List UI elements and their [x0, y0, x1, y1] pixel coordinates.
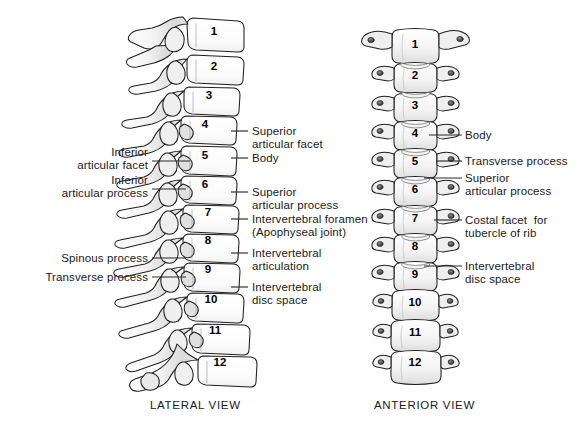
vertebra-number-lateral-10: 10 [202, 293, 220, 305]
label-line: Transverse process [45, 271, 148, 284]
vertebra-number-lateral-4: 4 [196, 118, 214, 130]
label-lateral-transverse-process: Transverse process [45, 271, 148, 284]
label-line: articular process [252, 199, 338, 212]
label-line: (Apophyseal joint) [252, 226, 368, 239]
label-line: tubercle of rib [465, 227, 548, 240]
label-line: Spinous process [61, 252, 148, 265]
vertebra-number-lateral-3: 3 [200, 89, 218, 101]
label-anterior-costal-facet-for-tubercle-of-rib: Costal facet fortubercle of rib [465, 214, 548, 239]
vertebra-number-lateral-7: 7 [199, 206, 217, 218]
label-line: Intervertebral foramen [252, 213, 368, 226]
vertebra-number-lateral-8: 8 [199, 234, 217, 246]
label-lateral-intervertebral-articulation: Intervertebralarticulation [252, 247, 321, 272]
label-lateral-spinous-process: Spinous process [61, 252, 148, 265]
vertebra-number-anterior-3: 3 [406, 99, 424, 111]
label-line: articular process [62, 187, 148, 200]
vertebra-number-anterior-4: 4 [406, 127, 424, 139]
label-line: Body [465, 129, 492, 142]
anatomy-figure: Inferiorarticular facetInferiorarticular… [0, 0, 576, 426]
label-line: Superior [465, 172, 551, 185]
vertebra-number-anterior-12: 12 [406, 356, 424, 368]
vertebra-number-anterior-11: 11 [406, 326, 424, 338]
label-line: Inferior [77, 146, 148, 159]
label-line: articular facet [77, 159, 148, 172]
label-lateral-superior-articular-process: Superiorarticular process [252, 186, 338, 211]
vertebra-number-lateral-1: 1 [205, 25, 223, 37]
label-line: Transverse process [465, 155, 568, 168]
vertebra-number-anterior-1: 1 [406, 38, 424, 50]
label-anterior-transverse-process: Transverse process [465, 155, 568, 168]
label-line: disc space [465, 273, 534, 286]
label-line: Intervertebral [252, 247, 321, 260]
label-anterior-superior-articular-process: Superiorarticular process [465, 172, 551, 197]
vertebra-number-lateral-12: 12 [211, 356, 229, 368]
label-lateral-superior-articular-facet: Superiorarticular facet [252, 125, 323, 150]
vertebra-number-anterior-10: 10 [406, 296, 424, 308]
label-line: Superior [252, 125, 323, 138]
label-lateral-inferior-articular-facet: Inferiorarticular facet [77, 146, 148, 171]
vertebra-number-lateral-6: 6 [196, 178, 214, 190]
label-lateral-intervertebral-foramen-apophyseal-joint: Intervertebral foramen(Apophyseal joint) [252, 213, 368, 238]
label-anterior-intervertebral-disc-space: Intervertebraldisc space [465, 260, 534, 285]
vertebra-number-lateral-5: 5 [196, 149, 214, 161]
label-line: Superior [252, 186, 338, 199]
vertebra-number-lateral-9: 9 [199, 263, 217, 275]
label-lateral-body: Body [252, 152, 279, 165]
label-lateral-intervertebral-disc-space: Intervertebraldisc space [252, 281, 321, 306]
vertebra-number-anterior-6: 6 [406, 183, 424, 195]
vertebra-number-anterior-9: 9 [406, 268, 424, 280]
label-lateral-inferior-articular-process: Inferiorarticular process [62, 174, 148, 199]
label-line: Intervertebral [465, 260, 534, 273]
label-anterior-body: Body [465, 129, 492, 142]
label-line: Inferior [62, 174, 148, 187]
label-line: articular facet [252, 138, 323, 151]
label-line: Costal facet for [465, 214, 548, 227]
vertebra-number-anterior-2: 2 [406, 69, 424, 81]
vertebra-number-anterior-5: 5 [406, 155, 424, 167]
vertebra-number-anterior-8: 8 [406, 240, 424, 252]
vertebra-number-lateral-11: 11 [206, 324, 224, 336]
label-line: articulation [252, 260, 321, 273]
label-line: Intervertebral [252, 281, 321, 294]
lateral-spine-group [114, 17, 257, 391]
caption-anterior-view: ANTERIOR VIEW [374, 399, 475, 411]
label-line: Body [252, 152, 279, 165]
label-line: articular process [465, 185, 551, 198]
label-line: disc space [252, 294, 321, 307]
vertebra-number-anterior-7: 7 [406, 212, 424, 224]
caption-lateral-view: LATERAL VIEW [150, 399, 241, 411]
vertebra-number-lateral-2: 2 [205, 60, 223, 72]
